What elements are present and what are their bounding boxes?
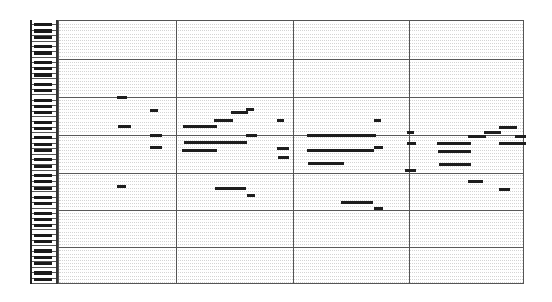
black-key[interactable] (34, 23, 52, 26)
note-block[interactable] (308, 162, 344, 165)
black-key[interactable] (34, 136, 52, 139)
note-block[interactable] (484, 131, 501, 134)
black-key[interactable] (34, 158, 52, 161)
black-key[interactable] (34, 249, 52, 252)
piano-keyboard[interactable] (30, 20, 58, 284)
note-block[interactable] (117, 185, 126, 188)
black-key[interactable] (34, 149, 52, 152)
black-key[interactable] (34, 196, 52, 199)
semitone-row-line (59, 254, 523, 255)
black-key[interactable] (34, 165, 52, 168)
black-key[interactable] (34, 83, 52, 86)
black-key[interactable] (34, 262, 52, 265)
note-block[interactable] (182, 149, 217, 152)
black-key[interactable] (34, 271, 52, 274)
note-block[interactable] (277, 147, 289, 150)
black-key[interactable] (34, 212, 52, 215)
black-key[interactable] (34, 127, 52, 130)
semitone-row-line (59, 188, 523, 189)
note-block[interactable] (499, 142, 526, 145)
note-block[interactable] (117, 96, 127, 99)
semitone-row-line (59, 269, 523, 270)
piano-roll (0, 0, 552, 302)
note-block[interactable] (374, 119, 381, 122)
note-block[interactable] (215, 187, 246, 190)
note-block[interactable] (405, 169, 416, 172)
note-block[interactable] (150, 134, 162, 137)
semitone-row-line (59, 40, 523, 41)
black-key[interactable] (34, 36, 52, 39)
black-key[interactable] (34, 202, 52, 205)
note-block[interactable] (468, 180, 483, 183)
note-block[interactable] (247, 194, 255, 197)
note-block[interactable] (437, 142, 471, 145)
semitone-row-line (59, 244, 523, 245)
black-key[interactable] (34, 224, 52, 227)
semitone-row-line (59, 235, 523, 236)
note-block[interactable] (118, 125, 131, 128)
semitone-row-line (59, 112, 523, 113)
note-block[interactable] (246, 108, 254, 111)
note-block[interactable] (515, 135, 526, 138)
semitone-row-line (59, 222, 523, 223)
semitone-row-line (59, 200, 523, 201)
note-block[interactable] (183, 125, 217, 128)
note-block[interactable] (374, 146, 383, 149)
black-key[interactable] (34, 89, 52, 92)
black-key[interactable] (34, 143, 52, 146)
bar-line (293, 21, 294, 283)
black-key[interactable] (34, 67, 52, 70)
semitone-row-line (59, 37, 523, 38)
note-block[interactable] (407, 142, 416, 145)
black-key[interactable] (34, 240, 52, 243)
semitone-row-line (59, 27, 523, 28)
black-key[interactable] (34, 180, 52, 183)
black-key[interactable] (34, 278, 52, 281)
semitone-row-line (59, 263, 523, 264)
semitone-row-line (59, 147, 523, 148)
black-key[interactable] (34, 29, 52, 32)
note-block[interactable] (374, 207, 383, 210)
note-block[interactable] (499, 126, 517, 129)
black-key[interactable] (34, 73, 52, 76)
note-block[interactable] (438, 150, 471, 153)
note-block[interactable] (407, 131, 414, 134)
note-block[interactable] (468, 135, 486, 138)
black-key[interactable] (34, 61, 52, 64)
note-block[interactable] (231, 111, 248, 114)
note-block[interactable] (341, 201, 373, 204)
black-key[interactable] (34, 51, 52, 54)
note-block[interactable] (184, 141, 247, 144)
octave-line (59, 59, 523, 60)
black-key[interactable] (34, 121, 52, 124)
semitone-row-line (59, 71, 523, 72)
semitone-row-line (59, 279, 523, 280)
note-block[interactable] (246, 134, 257, 137)
black-key[interactable] (34, 174, 52, 177)
black-key[interactable] (34, 111, 52, 114)
semitone-row-line (59, 62, 523, 63)
black-key[interactable] (34, 256, 52, 259)
semitone-row-line (59, 74, 523, 75)
note-block[interactable] (150, 109, 158, 112)
black-key[interactable] (34, 45, 52, 48)
black-key[interactable] (34, 105, 52, 108)
semitone-row-line (59, 122, 523, 123)
semitone-row-line (59, 266, 523, 267)
note-block[interactable] (307, 149, 374, 152)
black-key[interactable] (34, 99, 52, 102)
note-block[interactable] (499, 188, 510, 191)
black-key[interactable] (34, 234, 52, 237)
semitone-row-line (59, 276, 523, 277)
semitone-row-line (59, 194, 523, 195)
note-block[interactable] (439, 163, 471, 166)
note-grid[interactable] (58, 20, 524, 284)
black-key[interactable] (34, 187, 52, 190)
note-block[interactable] (278, 156, 289, 159)
note-block[interactable] (214, 119, 233, 122)
semitone-row-line (59, 238, 523, 239)
note-block[interactable] (150, 146, 162, 149)
note-block[interactable] (307, 134, 376, 137)
black-key[interactable] (34, 218, 52, 221)
note-block[interactable] (277, 119, 284, 122)
